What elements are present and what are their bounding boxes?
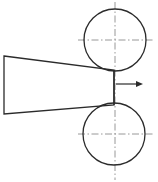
technical-drawing-canvas xyxy=(0,0,158,182)
roller-nip-diagram xyxy=(0,0,158,182)
